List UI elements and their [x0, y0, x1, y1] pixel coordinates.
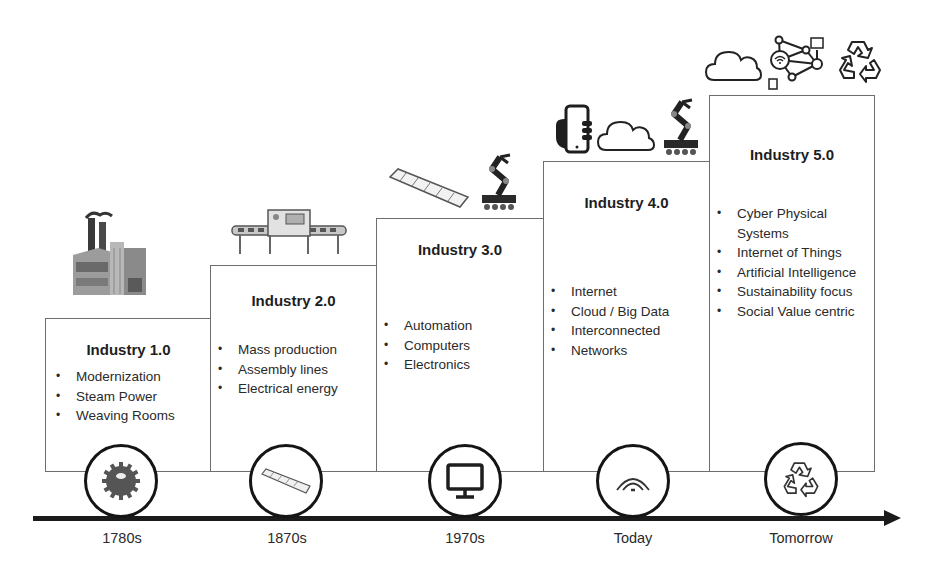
stage-title: Industry 3.0: [377, 241, 543, 258]
stage-bullets: Automation Computers Electronics: [382, 316, 472, 375]
stage-title: Industry 4.0: [544, 194, 709, 211]
era-label-1870s: 1870s: [227, 530, 347, 546]
bullet: Internet: [549, 282, 669, 302]
bullet: Cyber Physical Systems: [715, 204, 873, 243]
stage-bullets: Mass production Assembly lines Electrica…: [216, 340, 338, 399]
bullet: Networks: [549, 341, 669, 361]
computer-monitor-icon: [444, 461, 486, 501]
era-label-1780s: 1780s: [62, 530, 182, 546]
cloud-icon: [704, 44, 762, 84]
factory-icon: [68, 210, 158, 300]
recycle-icon: [781, 459, 821, 499]
stage-bullets: Cyber Physical Systems Internet of Thing…: [715, 204, 873, 321]
bullet: Artificial Intelligence: [715, 263, 873, 283]
wifi-signal-icon: [613, 466, 653, 496]
industry-evolution-diagram: Industry 1.0 Modernization Steam Power W…: [0, 0, 929, 582]
bullet: Computers: [382, 336, 472, 356]
bullet: Sustainability focus: [715, 282, 873, 302]
stage-bullets: Modernization Steam Power Weaving Rooms: [54, 367, 175, 426]
bullet: Electronics: [382, 355, 472, 375]
era-label-1970s: 1970s: [405, 530, 525, 546]
bullet: Steam Power: [54, 387, 175, 407]
timeline-arrowhead: [884, 510, 901, 526]
stage-title: Industry 5.0: [710, 146, 874, 163]
robot-arm-icon: [478, 153, 520, 213]
stage-title: Industry 2.0: [211, 292, 376, 309]
bullet: Automation: [382, 316, 472, 336]
era-circle-tomorrow: [764, 442, 838, 516]
era-circle-1870s: [249, 444, 323, 518]
era-label-tomorrow: Tomorrow: [741, 530, 861, 546]
conveyor-belt-icon: [260, 466, 312, 496]
gear-icon: [101, 461, 141, 501]
smartphone-hand-icon: [552, 103, 594, 158]
stage-box-industry-2: Industry 2.0 Mass production Assembly li…: [210, 265, 377, 472]
era-label-today: Today: [573, 530, 693, 546]
era-circle-1780s: [84, 444, 158, 518]
bullet: Internet of Things: [715, 243, 873, 263]
recycle-icon: [836, 38, 884, 84]
assembly-line-machine-icon: [230, 208, 348, 258]
conveyor-belt-icon: [388, 163, 470, 213]
bullet: Social Value centric: [715, 302, 873, 322]
stage-box-industry-5: Industry 5.0 Cyber Physical Systems Inte…: [709, 95, 875, 472]
stage-box-industry-4: Industry 4.0 Internet Cloud / Big Data I…: [543, 161, 710, 472]
bullet: Assembly lines: [216, 360, 338, 380]
bullet: Weaving Rooms: [54, 406, 175, 426]
bullet: Interconnected: [549, 321, 669, 341]
era-circle-today: [596, 444, 670, 518]
bullet: Modernization: [54, 367, 175, 387]
cloud-icon: [596, 114, 656, 154]
stage-title: Industry 1.0: [46, 341, 211, 358]
era-circle-1970s: [428, 444, 502, 518]
iot-network-icon: [768, 32, 830, 92]
bullet: Cloud / Big Data: [549, 302, 669, 322]
stage-box-industry-3: Industry 3.0 Automation Computers Electr…: [376, 218, 544, 472]
stage-bullets: Internet Cloud / Big Data Interconnected…: [549, 282, 669, 360]
bullet: Mass production: [216, 340, 338, 360]
robot-arm-icon: [660, 98, 702, 158]
bullet: Electrical energy: [216, 379, 338, 399]
